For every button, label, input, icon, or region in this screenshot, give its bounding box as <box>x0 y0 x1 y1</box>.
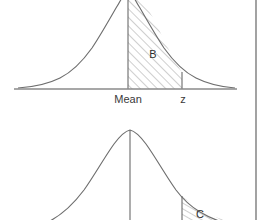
lower-bell-curve <box>48 130 226 220</box>
upper-bell-curve <box>18 0 235 88</box>
upper-mean-label: Mean <box>114 93 142 105</box>
lower-region-c-label: C <box>196 208 204 220</box>
lower-shaded-region-c <box>176 190 234 220</box>
region-c-hatch-fill <box>176 190 234 220</box>
upper-region-b-label: B <box>149 48 156 60</box>
upper-chart-group: Mean z B <box>14 0 237 105</box>
figure-canvas: Mean z B C <box>0 0 266 220</box>
upper-z-label: z <box>180 93 186 105</box>
normal-distribution-figure: Mean z B C <box>0 0 266 220</box>
lower-chart-group: C <box>48 130 234 220</box>
